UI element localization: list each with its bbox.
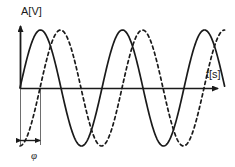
phase-symbol-label: φ [31,150,37,161]
axes [21,26,219,89]
y-axis-label: A[V] [21,6,42,17]
x-axis-label: t[s] [206,69,221,80]
waveform-phase-diagram: A[V] t[s] φ [0,0,235,167]
plot-canvas [0,0,235,167]
